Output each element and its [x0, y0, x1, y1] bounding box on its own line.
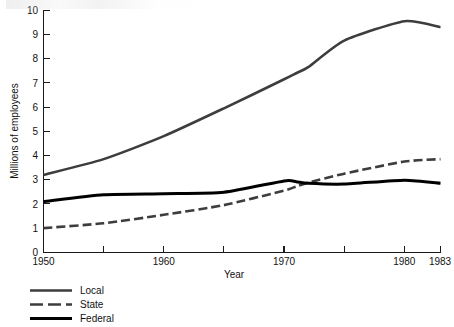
x-tick-label: 1950 [32, 256, 55, 267]
series-line-local [44, 21, 441, 175]
x-tick-label: 1960 [153, 256, 176, 267]
x-tick-marks [44, 246, 441, 253]
legend-label-federal: Federal [80, 313, 114, 324]
y-tick-labels: 10 9 8 7 6 5 4 3 2 1 0 [27, 5, 39, 258]
y-tick-label: 5 [32, 126, 38, 137]
y-tick-label: 7 [32, 78, 38, 89]
y-tick-label: 2 [32, 199, 38, 210]
employment-line-chart: 10 9 8 7 6 5 4 3 2 1 0 1950 1960 1 [0, 0, 454, 327]
x-tick-labels: 1950 1960 1970 1980 1983 [32, 256, 451, 267]
series-line-federal [44, 180, 441, 201]
y-tick-label: 8 [32, 53, 38, 64]
y-tick-label: 9 [32, 29, 38, 40]
y-tick-label: 10 [27, 5, 39, 16]
x-tick-label: 1980 [393, 256, 416, 267]
chart-legend: Local State Federal [30, 285, 114, 324]
x-axis-title: Year [224, 269, 245, 280]
y-tick-marks [44, 10, 51, 252]
y-axis-title: Millions of employees [9, 83, 20, 179]
x-tick-label: 1970 [273, 256, 296, 267]
y-tick-label: 1 [32, 223, 38, 234]
y-tick-label: 4 [32, 150, 38, 161]
y-tick-label: 3 [32, 174, 38, 185]
legend-label-local: Local [80, 285, 104, 296]
y-tick-label: 6 [32, 102, 38, 113]
chart-canvas: 10 9 8 7 6 5 4 3 2 1 0 1950 1960 1 [0, 0, 454, 327]
legend-label-state: State [80, 299, 104, 310]
x-tick-label: 1983 [429, 256, 452, 267]
series-group [44, 21, 441, 228]
